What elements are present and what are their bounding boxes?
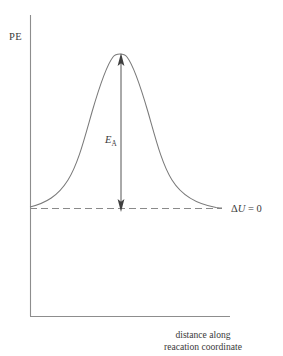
- activation-energy-subscript: A: [111, 140, 117, 148]
- x-axis-label-line1: distance along: [175, 329, 230, 340]
- delta-u-zero-label: ΔU = 0: [231, 203, 262, 214]
- pe-diagram-figure: PE EA ΔU = 0 distance along reacation co…: [0, 0, 283, 356]
- y-axis-label: PE: [9, 31, 22, 42]
- activation-energy-curve: [30, 54, 222, 208]
- activation-energy-label: EA: [104, 134, 117, 148]
- x-axis-label-line2: reacation coordinate: [164, 341, 242, 352]
- potential-energy-chart: PE EA ΔU = 0 distance along reacation co…: [0, 0, 283, 356]
- equals-zero: = 0: [245, 203, 261, 214]
